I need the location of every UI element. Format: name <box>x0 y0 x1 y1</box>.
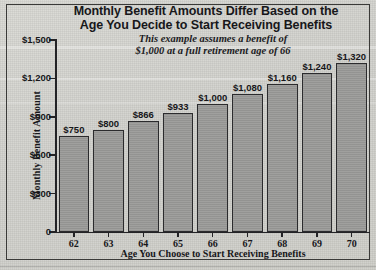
bar-series: $75062$80063$86664$93365$1,00066$1,08067… <box>0 0 376 270</box>
x-axis-tick <box>281 232 282 237</box>
bar-value-label: $1,080 <box>221 82 273 93</box>
x-axis-tick <box>212 232 213 237</box>
x-axis-tick <box>143 232 144 237</box>
bar[interactable] <box>302 73 333 232</box>
bar-value-label: $1,000 <box>187 92 239 103</box>
plot-area: 0$300$600$900$1,200$1,500 Monthly Benefi… <box>0 0 376 270</box>
bar-value-label: $1,160 <box>256 72 308 83</box>
x-axis-title: Age You Choose to Start Receiving Benefi… <box>56 248 370 259</box>
bar[interactable] <box>197 104 228 232</box>
x-axis-tick <box>73 232 74 237</box>
bar[interactable] <box>163 113 194 232</box>
bar[interactable] <box>128 121 159 232</box>
bar-value-label: $1,240 <box>291 61 343 72</box>
bar[interactable] <box>232 94 263 232</box>
x-axis-tick <box>177 232 178 237</box>
x-axis-tick <box>247 232 248 237</box>
bar[interactable] <box>336 63 367 232</box>
page-rule <box>0 266 376 267</box>
bar[interactable] <box>267 84 298 232</box>
x-axis-tick <box>108 232 109 237</box>
bar[interactable] <box>59 136 90 232</box>
bar-value-label: $1,320 <box>326 51 376 62</box>
x-axis-tick <box>316 232 317 237</box>
bar[interactable] <box>93 130 124 232</box>
x-axis-tick <box>351 232 352 237</box>
